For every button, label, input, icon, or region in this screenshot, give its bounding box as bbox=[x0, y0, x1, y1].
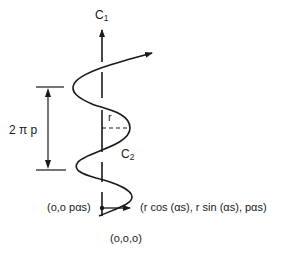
curve-label-text: C bbox=[121, 147, 130, 161]
pitch-label: 2 π p bbox=[9, 124, 37, 136]
curve-label-subscript: 2 bbox=[130, 152, 135, 162]
diagram-graphics bbox=[0, 0, 287, 258]
helix-diagram: C1 C2 2 π p r (o,o pαs) (r cos (αs), r s… bbox=[0, 0, 287, 258]
axis-point-label: (o,o pαs) bbox=[47, 202, 91, 213]
helix-curve bbox=[73, 53, 152, 216]
origin-label: (o,o,o) bbox=[110, 233, 142, 244]
axis-label-c1: C1 bbox=[95, 9, 108, 22]
axis-label-text: C bbox=[95, 8, 104, 22]
radius-label: r bbox=[108, 112, 112, 123]
axis-label-subscript: 1 bbox=[104, 13, 109, 23]
pitch-dimension bbox=[36, 87, 66, 170]
curve-point-label: (r cos (αs), r sin (αs), pαs) bbox=[140, 202, 267, 213]
curve-label-c2: C2 bbox=[121, 148, 134, 161]
